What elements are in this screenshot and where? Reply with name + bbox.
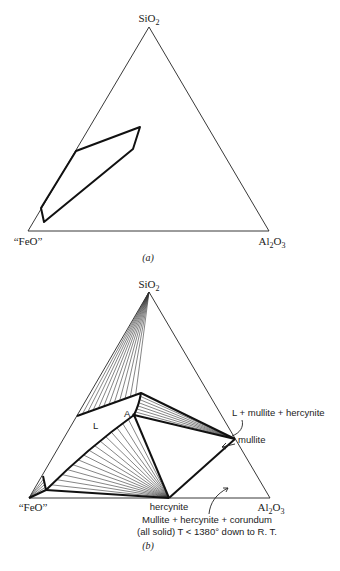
vertex-label-sio2-a: SiO2 [138, 12, 159, 27]
label-hercynite: hercynite [150, 501, 189, 512]
tie-line-hercynite [84, 455, 169, 498]
vertex-label-feo-a: “FeO” [14, 235, 43, 247]
arrow-solid-region [209, 488, 228, 514]
tie-line-sio2 [82, 292, 149, 414]
vertex-label-sio2-b: SiO2 [138, 278, 159, 293]
label-solid-line1: Mullite + hercynite + corundum [142, 514, 272, 525]
label-three-phase: L + mullite + hercynite [232, 407, 325, 418]
figure-b: SiO2 “FeO” Al2O3 L A mullite hercynite L… [19, 278, 325, 552]
phase-diagrams: SiO2 “FeO” Al2O3 (a) SiO2 “FeO” Al2O3 L … [0, 0, 340, 571]
label-solid-line2: (all solid) T < 1380° down to R. T. [137, 526, 277, 537]
tie-line-sio2 [104, 292, 149, 406]
vertex-label-al2o3-a: Al2O3 [259, 235, 286, 250]
tie-upper-mullite [141, 393, 235, 439]
tie-line-hercynite [100, 441, 169, 498]
tie-line-mullite [138, 402, 235, 439]
label-mullite: mullite [238, 434, 265, 445]
tie-a-mullite [134, 415, 235, 439]
tie-line-sio2 [114, 292, 149, 403]
tie-line-sio2 [109, 292, 149, 405]
liquidus-upper-boundary [77, 393, 141, 416]
figure-b-label: (b) [142, 540, 154, 552]
figure-a-label: (a) [142, 252, 154, 264]
point-a-marker [132, 413, 136, 417]
label-point-a: A [124, 408, 131, 419]
tie-line-mullite [137, 406, 235, 439]
tie-line-hercynite [106, 437, 169, 498]
label-liquid: L [93, 420, 98, 431]
tie-line-sio2 [120, 292, 149, 401]
vertex-label-feo-b: “FeO” [19, 501, 48, 513]
ternary-triangle-a [28, 27, 269, 231]
liquid-region-a [41, 127, 140, 222]
figure-a: SiO2 “FeO” Al2O3 (a) [14, 12, 286, 264]
liquidus-lower-boundary [43, 415, 134, 490]
